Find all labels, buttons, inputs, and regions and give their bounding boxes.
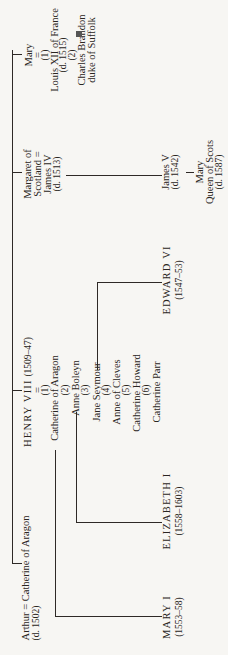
edward-vi-reign: (1547–53) bbox=[175, 260, 185, 300]
james-iv-to-james-v-line bbox=[66, 175, 162, 176]
james-v-death: (d. 1542) bbox=[171, 155, 181, 190]
boleyn-to-elizabeth-vertical bbox=[76, 412, 77, 523]
edward-vi-name: EDWARD VI bbox=[162, 245, 173, 314]
main-spine-line bbox=[12, 50, 13, 564]
mary-i-reign: (1553–58) bbox=[175, 597, 185, 637]
margaret-connector bbox=[12, 172, 22, 173]
mary-spouse2-title: duke of Suffolk bbox=[87, 17, 98, 83]
seymour-to-edward-horizontal bbox=[97, 282, 162, 283]
arthur-line2: (d. 1502) bbox=[32, 606, 42, 641]
catherine-to-mary-i-horizontal bbox=[55, 616, 162, 617]
wife-6-name: Catherine Parr bbox=[152, 362, 163, 423]
mary-i-name: MARY I bbox=[162, 595, 173, 639]
seymour-to-edward-vertical bbox=[97, 282, 98, 370]
henry-viii-reign: (1509–47) bbox=[23, 337, 33, 377]
arthur-line1: Arthur = Catherine of Aragon bbox=[21, 516, 32, 641]
catherine-to-mary-i-vertical bbox=[55, 450, 56, 617]
margaret-line4: (d. 1513) bbox=[53, 157, 63, 192]
mary-qos-death: (d. 1587) bbox=[215, 155, 225, 190]
wife-1-name: Catherine of Aragon bbox=[50, 355, 61, 441]
boleyn-to-elizabeth-horizontal bbox=[76, 522, 162, 523]
elizabeth-i-reign: (1558–1603) bbox=[175, 486, 185, 535]
mary-connector bbox=[12, 54, 22, 55]
ink-mark bbox=[76, 31, 82, 37]
henry-connector bbox=[12, 390, 22, 391]
wife-3-num: (3) bbox=[81, 384, 91, 395]
elizabeth-i-name: ELIZABETH I bbox=[162, 472, 173, 549]
